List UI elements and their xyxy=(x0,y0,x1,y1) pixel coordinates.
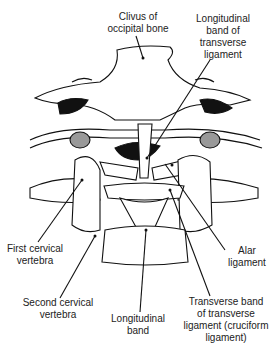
label-first-cervical: First cervical vertebra xyxy=(2,243,68,267)
label-longitudinal-band: Longitudinal band xyxy=(108,313,168,337)
label-longitudinal-band-transverse: Longitudinal band of transverse ligament xyxy=(180,13,266,61)
label-clivus: Clivus of occipital bone xyxy=(102,11,174,35)
label-alar-ligament: Alar ligament xyxy=(222,245,272,269)
label-transverse-band: Transverse band of transverse ligament (… xyxy=(178,296,274,344)
label-second-cervical: Second cervical vertebra xyxy=(18,297,98,321)
